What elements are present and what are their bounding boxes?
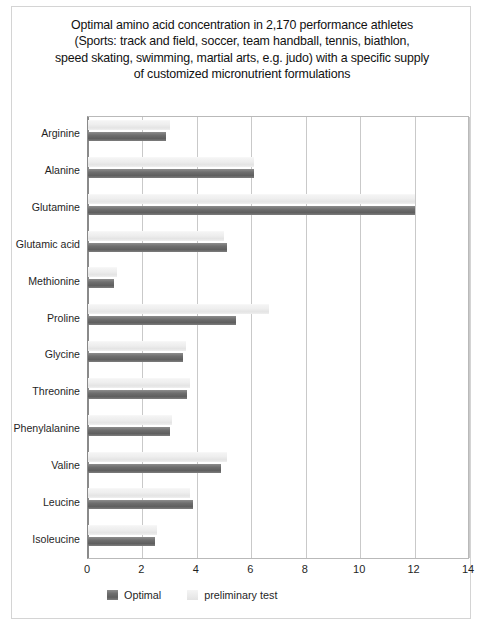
y-axis-label-threonine: Threonine: [32, 385, 80, 397]
y-axis-label-proline: Proline: [47, 312, 80, 324]
bar-preliminary-test: [88, 378, 190, 388]
bar-row: [88, 264, 468, 301]
bar-row: [88, 522, 468, 559]
chart-figure: Optimal amino acid concentration in 2,17…: [11, 6, 471, 619]
bar-preliminary-test: [88, 415, 172, 425]
bar-preliminary-test: [88, 194, 415, 204]
y-axis-label-valine: Valine: [51, 459, 80, 471]
bar-row: [88, 228, 468, 265]
x-tick-label-10: 10: [353, 563, 365, 575]
bar-row: [88, 154, 468, 191]
bar-optimal: [88, 169, 254, 178]
bar-preliminary-test: [88, 488, 190, 498]
legend-label: Optimal: [124, 589, 161, 601]
x-tick-label-0: 0: [84, 563, 90, 575]
plot-area: [87, 116, 469, 559]
bar-optimal: [88, 500, 193, 509]
bar-preliminary-test: [88, 120, 170, 130]
bar-optimal: [88, 427, 170, 436]
y-axis-label-glutamine: Glutamine: [32, 201, 80, 213]
bar-preliminary-test: [88, 341, 186, 351]
x-tick-label-8: 8: [302, 563, 308, 575]
bar-optimal: [88, 279, 114, 288]
bar-preliminary-test: [88, 525, 157, 535]
legend-swatch-icon: [187, 590, 198, 600]
bar-row: [88, 338, 468, 375]
bar-row: [88, 117, 468, 154]
chart-title: Optimal amino acid concentration in 2,17…: [12, 17, 472, 83]
bar-preliminary-test: [88, 157, 254, 167]
x-axis-tick-labels: 02468101214: [87, 563, 469, 581]
legend-item-preliminary-test[interactable]: preliminary test: [187, 589, 277, 601]
bar-optimal: [88, 537, 155, 546]
chart-title-line-3: speed skating, swimming, martial arts, e…: [12, 50, 472, 66]
chart-legend: Optimalpreliminary test: [107, 587, 277, 603]
y-axis-label-isoleucine: Isoleucine: [32, 533, 80, 545]
bar-preliminary-test: [88, 267, 117, 277]
y-axis-label-arginine: Arginine: [41, 127, 80, 139]
bar-row: [88, 485, 468, 522]
chart-title-line-4: of customized micronutrient formulations: [12, 66, 472, 82]
bar-row: [88, 301, 468, 338]
bar-preliminary-test: [88, 231, 224, 241]
chart-title-line-1: Optimal amino acid concentration in 2,17…: [12, 17, 472, 33]
y-axis-label-glycine: Glycine: [45, 348, 80, 360]
bar-preliminary-test: [88, 304, 269, 314]
x-tick-label-14: 14: [462, 563, 474, 575]
chart-title-line-2: (Sports: track and field, soccer, team h…: [12, 33, 472, 49]
bar-optimal: [88, 390, 187, 399]
x-tick-label-2: 2: [138, 563, 144, 575]
y-axis-label-glutamic-acid: Glutamic acid: [16, 238, 80, 250]
bar-optimal: [88, 316, 236, 325]
bar-optimal: [88, 243, 227, 252]
bar-optimal: [88, 206, 415, 215]
bar-optimal: [88, 132, 166, 141]
legend-swatch-icon: [107, 590, 118, 600]
legend-label: preliminary test: [204, 589, 277, 601]
bar-row: [88, 375, 468, 412]
bar-optimal: [88, 353, 183, 362]
legend-item-optimal[interactable]: Optimal: [107, 589, 161, 601]
x-tick-label-12: 12: [407, 563, 419, 575]
y-axis-label-alanine: Alanine: [45, 164, 80, 176]
x-tick-label-6: 6: [247, 563, 253, 575]
bar-row: [88, 449, 468, 486]
y-axis-label-leucine: Leucine: [43, 496, 80, 508]
y-axis-label-methionine: Methionine: [28, 275, 80, 287]
y-axis-label-phenylalanine: Phenylalanine: [13, 422, 80, 434]
bar-row: [88, 191, 468, 228]
bar-row: [88, 412, 468, 449]
bar-preliminary-test: [88, 452, 227, 462]
bar-rows: [88, 117, 468, 558]
gridline-14: [469, 117, 470, 558]
x-tick-label-4: 4: [193, 563, 199, 575]
bar-optimal: [88, 464, 221, 473]
y-axis-category-labels: ArginineAlanineGlutamineGlutamic acidMet…: [12, 116, 87, 559]
